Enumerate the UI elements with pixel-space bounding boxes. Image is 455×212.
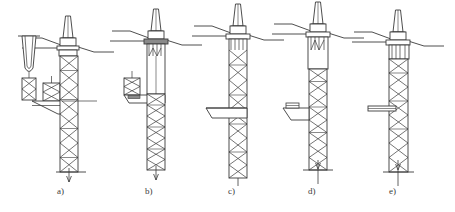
panel-a-side-lattice-block (43, 76, 60, 101)
panel-b-jacket-upper (147, 44, 165, 94)
panel-a-transition-piece (57, 38, 79, 56)
panel-c-barge (206, 108, 247, 118)
panel-d (272, 2, 364, 184)
panel-e (352, 10, 444, 186)
panel-a-suspended-tower-section (18, 36, 40, 72)
panel-e-jacket-upper (389, 45, 409, 59)
panel-d-jacket-upper (308, 37, 328, 69)
installation-sequence-diagram (0, 0, 455, 212)
panel-e-transition-piece (386, 32, 410, 45)
panel-caption-c: c) (228, 186, 235, 196)
panel-d-transition-piece (306, 24, 330, 37)
panel-c (192, 4, 284, 186)
panel-b-jacket (147, 94, 165, 170)
panel-d-jacket (309, 69, 327, 170)
panel-a-jacket (60, 56, 78, 172)
panel-caption-d: d) (308, 186, 316, 196)
panel-caption-a: a) (57, 186, 64, 196)
panel-b-transition-piece (144, 31, 168, 44)
panel-e-jacket (389, 59, 408, 172)
panel-b-shaded-hub-ring (144, 39, 168, 44)
panel-d-barge (283, 103, 309, 120)
panel-b (110, 9, 202, 180)
panel-b-side-lattice-block (124, 71, 140, 95)
panel-a-barge (32, 101, 62, 114)
panel-a (18, 16, 114, 182)
figure-canvas: a) b) c) d) e) (0, 0, 455, 212)
panel-e-horizontal-arm (368, 106, 396, 111)
panel-c-transition-piece (226, 26, 250, 39)
panel-caption-e: e) (389, 186, 396, 196)
panel-caption-b: b) (145, 186, 153, 196)
panel-a-suspended-lattice (22, 72, 36, 100)
